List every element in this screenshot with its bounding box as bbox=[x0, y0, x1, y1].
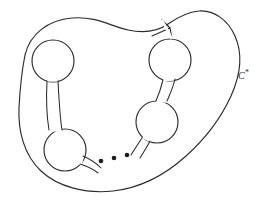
outer-curve-label-base: C bbox=[238, 70, 245, 81]
tube-left-outer-edge bbox=[47, 81, 49, 130]
tail-bottom-right-lower-edge bbox=[140, 141, 150, 158]
outer-curve-path bbox=[19, 11, 240, 192]
outer-curve-label: C* bbox=[238, 69, 249, 81]
tube-right-inner-edge bbox=[167, 79, 175, 101]
tail-bottom-right-gap bbox=[143, 137, 151, 141]
ellipsis-dots bbox=[99, 153, 130, 164]
circle-top-left bbox=[32, 40, 74, 82]
ellipsis-dot bbox=[99, 159, 104, 164]
circle-top-right bbox=[149, 39, 191, 81]
tail-bottom-left-lower-edge bbox=[80, 164, 98, 173]
figure-container: C* bbox=[0, 0, 263, 205]
outer-curve-label-superscript: * bbox=[245, 68, 249, 77]
ellipsis-dot bbox=[125, 153, 130, 158]
circle-bottom-right bbox=[136, 101, 178, 143]
tube-right-top-gap bbox=[163, 79, 175, 80]
topology-diagram bbox=[0, 0, 263, 205]
ellipsis-dot bbox=[112, 156, 117, 161]
tube-right-outer-edge bbox=[156, 80, 163, 101]
tail-bottom-right-upper-edge bbox=[131, 138, 142, 155]
tail-bottom-left-gap bbox=[80, 155, 83, 165]
tube-left-inner-edge bbox=[58, 81, 62, 130]
